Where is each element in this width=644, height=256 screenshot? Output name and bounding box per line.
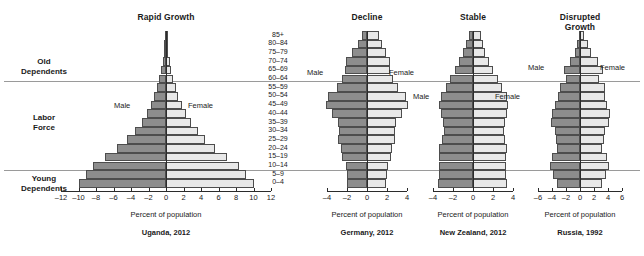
- bar-male-russia-65–69: [564, 66, 580, 75]
- x-tick-label-uganda--6: –6: [109, 193, 117, 202]
- side-label-young-dependents-line2: Dependents: [6, 184, 82, 194]
- bar-male-russia-15–19: [552, 153, 580, 162]
- center-axis-germany: [367, 31, 368, 188]
- bar-male-new-zealand-55–59: [446, 83, 474, 92]
- x-axis-line-new-zealand: [433, 191, 513, 192]
- x-tick-label-germany-0: 0: [365, 193, 369, 202]
- female-label-germany: Female: [389, 68, 414, 77]
- age-group-label-5–9: 5–9: [258, 170, 298, 177]
- x-tick-label-uganda-0: 0: [164, 193, 168, 202]
- bar-female-uganda-65–69: [166, 66, 171, 75]
- bar-female-uganda-0–4: [166, 179, 254, 188]
- pyramid-panel-new-zealand: Stable–4–2024Percent of populationNew Ze…: [0, 0, 644, 256]
- bar-female-new-zealand-35–39: [473, 118, 505, 127]
- male-label-uganda: Male: [114, 101, 130, 110]
- side-label-young-dependents: Young Dependents: [6, 174, 82, 194]
- x-axis-line-uganda: [61, 191, 271, 192]
- x-tick-uganda-2: [184, 188, 185, 191]
- bar-male-germany-30–34: [339, 127, 368, 136]
- x-tick-label-uganda-8: 8: [234, 193, 238, 202]
- bar-male-new-zealand-15–19: [439, 153, 474, 162]
- x-tick-label-germany-2: 2: [385, 193, 389, 202]
- bar-male-new-zealand-65–69: [455, 66, 474, 75]
- bar-female-russia-75–79: [580, 48, 591, 57]
- side-label-labor-force-line1: Labor: [6, 113, 82, 123]
- bar-female-uganda-30–34: [166, 127, 198, 136]
- x-tick-uganda--4: [131, 188, 132, 191]
- pyramid-panel-uganda: Rapid Growth–12–10–8–6–4–2024681012Perce…: [0, 0, 644, 256]
- x-tick-label-germany-4: 4: [405, 193, 409, 202]
- bar-female-new-zealand-30–34: [473, 127, 504, 136]
- x-tick-uganda-0: [166, 188, 167, 191]
- bar-male-new-zealand-30–34: [444, 127, 474, 136]
- bar-male-uganda-25–29: [127, 135, 166, 144]
- bar-male-russia-85+: [579, 31, 581, 40]
- age-group-label-40–44: 40–44: [258, 109, 298, 116]
- bar-male-uganda-0–4: [79, 179, 167, 188]
- bar-male-russia-10–14: [550, 162, 580, 171]
- bar-male-russia-40–44: [552, 109, 580, 118]
- bar-female-germany-85+: [367, 31, 379, 40]
- x-tick-label-uganda-4: 4: [199, 193, 203, 202]
- bar-male-new-zealand-80–84: [466, 40, 474, 49]
- bar-male-uganda-70–74: [163, 57, 166, 66]
- bar-male-russia-55–59: [560, 83, 580, 92]
- male-label-russia: Male: [528, 63, 544, 72]
- panel-title-line1-russia: Disrupted: [510, 12, 644, 22]
- bar-female-russia-40–44: [580, 109, 610, 118]
- x-axis-line-germany: [327, 191, 407, 192]
- bar-female-uganda-75–79: [166, 48, 168, 57]
- x-axis-title-uganda: Percent of population: [96, 210, 236, 219]
- bar-female-uganda-50–54: [166, 92, 178, 101]
- bar-male-russia-25–29: [556, 135, 580, 144]
- bar-male-germany-10–14: [346, 162, 368, 171]
- bar-female-new-zealand-65–69: [473, 66, 493, 75]
- side-label-old-dependents: Old Dependents: [6, 57, 82, 77]
- x-axis-line-russia: [538, 191, 622, 192]
- bar-male-uganda-35–39: [142, 118, 167, 127]
- x-tick-label-germany--4: –4: [323, 193, 331, 202]
- bar-female-germany-45–49: [367, 101, 408, 110]
- bar-male-germany-35–39: [338, 118, 368, 127]
- bar-female-germany-75–79: [367, 48, 386, 57]
- panel-title-line2-russia: Growth: [510, 22, 644, 32]
- bar-female-new-zealand-5–9: [473, 170, 506, 179]
- female-label-new-zealand: Female: [495, 92, 520, 101]
- bar-female-new-zealand-25–29: [473, 135, 505, 144]
- female-label-uganda: Female: [188, 101, 213, 110]
- bar-female-new-zealand-10–14: [473, 162, 506, 171]
- bar-female-new-zealand-75–79: [473, 48, 485, 57]
- age-group-label-55–59: 55–59: [258, 83, 298, 90]
- bar-male-new-zealand-40–44: [441, 109, 474, 118]
- bar-male-uganda-15–19: [105, 153, 166, 162]
- x-tick-germany-4: [407, 188, 408, 191]
- bar-male-uganda-40–44: [147, 109, 166, 118]
- bar-female-new-zealand-40–44: [473, 109, 507, 118]
- bar-female-new-zealand-50–54: [473, 92, 507, 101]
- bar-female-russia-65–69: [580, 66, 603, 75]
- x-tick-uganda--2: [149, 188, 150, 191]
- age-group-label-35–39: 35–39: [258, 118, 298, 125]
- x-tick-label-russia-0: 0: [578, 193, 582, 202]
- bar-male-germany-5–9: [347, 170, 368, 179]
- bar-female-russia-45–49: [580, 101, 607, 110]
- x-tick-uganda-8: [236, 188, 237, 191]
- bar-male-germany-0–4: [347, 179, 367, 188]
- divider-young-dependents: [4, 170, 640, 171]
- x-tick-label-uganda-6: 6: [216, 193, 220, 202]
- x-tick-russia-0: [580, 188, 581, 191]
- bar-male-new-zealand-45–49: [439, 101, 473, 110]
- bar-male-uganda-75–79: [164, 48, 166, 57]
- x-tick-label-uganda--4: –4: [127, 193, 135, 202]
- bar-male-germany-80–84: [358, 40, 368, 49]
- bar-male-germany-85+: [362, 31, 368, 40]
- female-label-russia: Female: [600, 63, 625, 72]
- bar-male-russia-30–34: [555, 127, 580, 136]
- x-tick-label-russia-6: 6: [620, 193, 624, 202]
- x-tick-germany-2: [387, 188, 388, 191]
- pyramid-panel-germany: Decline–4–2024Percent of populationGerma…: [0, 0, 644, 256]
- x-tick-russia-4: [608, 188, 609, 191]
- bar-male-new-zealand-0–4: [438, 179, 473, 188]
- x-tick-label-new-zealand-2: 2: [491, 193, 495, 202]
- center-axis-new-zealand: [473, 31, 474, 188]
